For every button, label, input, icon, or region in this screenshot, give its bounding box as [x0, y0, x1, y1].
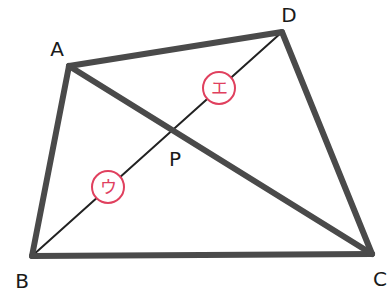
- quadrilateral-edges: [32, 32, 372, 256]
- vertex-label-a: A: [50, 37, 64, 61]
- edge-cd: [282, 32, 372, 254]
- circled-label-u: ウ: [92, 171, 124, 203]
- circled-label-text: ウ: [100, 177, 117, 197]
- intersection-label-p: P: [169, 147, 181, 171]
- vertex-label-d: D: [281, 3, 296, 27]
- edge-bc: [32, 254, 372, 256]
- circled-label-e: エ: [203, 72, 235, 104]
- vertex-label-c: C: [373, 267, 387, 291]
- vertex-label-b: B: [15, 269, 29, 293]
- quadrilateral-diagram: エ ウ A D B C P: [0, 0, 391, 302]
- circled-label-text: エ: [211, 78, 228, 98]
